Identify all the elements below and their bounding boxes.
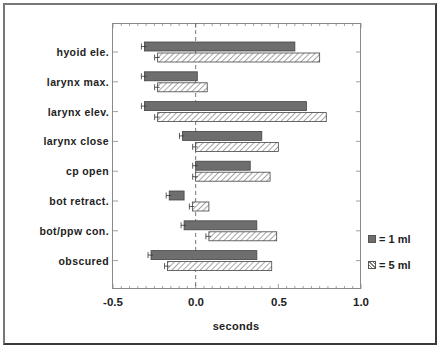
category-label: larynx max. — [47, 76, 109, 88]
category-label: cp open — [66, 165, 109, 177]
bar-5ml — [158, 83, 208, 92]
x-tick-label: 1.0 — [353, 296, 369, 308]
legend-item-1ml: = 1 ml — [368, 233, 411, 245]
x-tick-label: 0.0 — [188, 296, 204, 308]
bar-1ml — [144, 42, 294, 51]
bar-1ml — [144, 102, 306, 111]
bar-1ml — [184, 221, 257, 230]
bar-1ml — [169, 191, 184, 200]
bar-5ml — [158, 53, 320, 62]
x-tick-label: 0.5 — [271, 296, 287, 308]
legend-label: = 1 ml — [379, 233, 411, 245]
solid-swatch-icon — [368, 235, 376, 243]
category-label: obscured — [59, 255, 109, 267]
legend-item-5ml: = 5 ml — [368, 259, 411, 271]
bar-1ml — [182, 131, 261, 140]
bar-5ml — [196, 172, 270, 181]
x-axis-title: seconds — [213, 320, 260, 332]
bar-1ml — [151, 251, 257, 260]
hatched-swatch-icon — [368, 261, 376, 269]
category-label: larynx close — [43, 135, 109, 147]
bar-1ml — [144, 72, 197, 81]
category-label: hyoid ele. — [57, 46, 109, 58]
bar-5ml — [158, 113, 327, 122]
category-label: bot retract. — [49, 195, 109, 207]
bar-5ml — [168, 262, 272, 271]
bar-5ml — [196, 142, 279, 151]
bar-5ml — [209, 232, 277, 241]
category-label: larynx elev. — [48, 106, 109, 118]
bar-1ml — [196, 161, 251, 170]
x-tick-label: -0.5 — [103, 296, 123, 308]
legend-label: = 5 ml — [379, 259, 411, 271]
category-label: bot/ppw con. — [39, 225, 109, 237]
bar-5ml — [192, 202, 209, 211]
